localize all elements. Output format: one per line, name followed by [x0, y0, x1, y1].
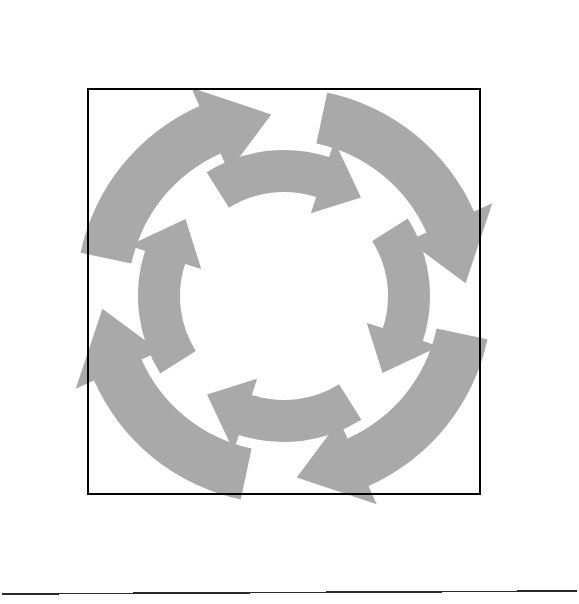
- diagram-page: [0, 0, 579, 604]
- figure-caption: [0, 596, 579, 604]
- circular-process-diagram: [0, 0, 579, 604]
- horizontal-separator: [2, 591, 577, 594]
- inner-ring-arrow-group: [129, 141, 439, 451]
